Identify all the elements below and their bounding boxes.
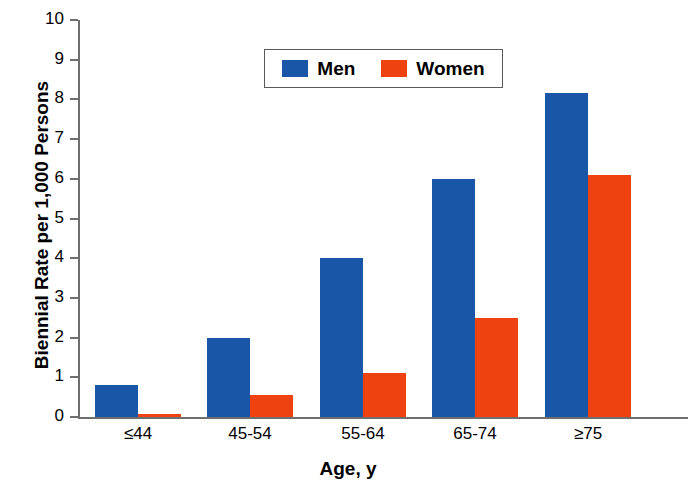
- y-tick-label-wrap: 1: [18, 366, 64, 386]
- x-tick-label: ≤44: [83, 424, 193, 444]
- x-axis-line: [78, 417, 688, 419]
- bar-women-3: [475, 318, 518, 417]
- y-tick-mark: [70, 416, 78, 418]
- x-tick-label: 55-64: [308, 424, 418, 444]
- bar-men-0: [95, 385, 138, 417]
- y-tick-mark: [70, 297, 78, 299]
- y-tick-label: 9: [22, 49, 64, 69]
- bar-women-4: [588, 175, 631, 417]
- y-tick-label: 6: [22, 168, 64, 188]
- y-tick-label: 2: [22, 327, 64, 347]
- x-tick-label: 45-54: [195, 424, 305, 444]
- x-axis-title: Age, y: [0, 458, 696, 480]
- legend-label-women: Women: [416, 59, 484, 78]
- y-tick-label: 7: [22, 128, 64, 148]
- bar-men-1: [207, 338, 250, 417]
- chart-legend: Men Women: [264, 49, 503, 88]
- bar-women-1: [250, 395, 293, 417]
- y-tick-label-wrap: 0: [18, 406, 64, 426]
- bar-chart-figure: Biennial Rate per 1,000 Persons 01234567…: [0, 0, 696, 499]
- legend-swatch-women-icon: [381, 60, 407, 77]
- y-tick-label-wrap: 6: [18, 168, 64, 188]
- bar-men-4: [545, 93, 588, 417]
- bar-women-0: [138, 414, 181, 417]
- y-tick-label: 8: [22, 88, 64, 108]
- y-tick-mark: [70, 337, 78, 339]
- y-tick-label: 3: [22, 287, 64, 307]
- y-tick-label-wrap: 4: [18, 247, 64, 267]
- bar-men-2: [320, 258, 363, 417]
- y-tick-label-wrap: 2: [18, 327, 64, 347]
- y-tick-mark: [70, 257, 78, 259]
- y-tick-label: 0: [22, 406, 64, 426]
- legend-label-men: Men: [317, 59, 355, 78]
- y-tick-label-wrap: 9: [18, 49, 64, 69]
- y-tick-label-wrap: 10: [18, 9, 64, 29]
- y-tick-label: 4: [22, 247, 64, 267]
- y-tick-mark: [70, 98, 78, 100]
- y-tick-mark: [70, 19, 78, 21]
- legend-item-women: Women: [381, 59, 484, 78]
- bar-men-3: [432, 179, 475, 417]
- y-tick-label: 10: [22, 9, 64, 29]
- y-tick-label: 5: [22, 208, 64, 228]
- y-tick-mark: [70, 59, 78, 61]
- y-tick-mark: [70, 218, 78, 220]
- y-tick-label-wrap: 3: [18, 287, 64, 307]
- y-tick-mark: [70, 178, 78, 180]
- legend-swatch-men-icon: [282, 60, 308, 77]
- y-tick-label-wrap: 8: [18, 88, 64, 108]
- y-tick-label: 1: [22, 366, 64, 386]
- y-tick-mark: [70, 138, 78, 140]
- x-tick-label: ≥75: [533, 424, 643, 444]
- y-tick-label-wrap: 5: [18, 208, 64, 228]
- y-tick-mark: [70, 376, 78, 378]
- bar-women-2: [363, 373, 406, 417]
- x-tick-label: 65-74: [420, 424, 530, 444]
- y-tick-label-wrap: 7: [18, 128, 64, 148]
- legend-item-men: Men: [282, 59, 355, 78]
